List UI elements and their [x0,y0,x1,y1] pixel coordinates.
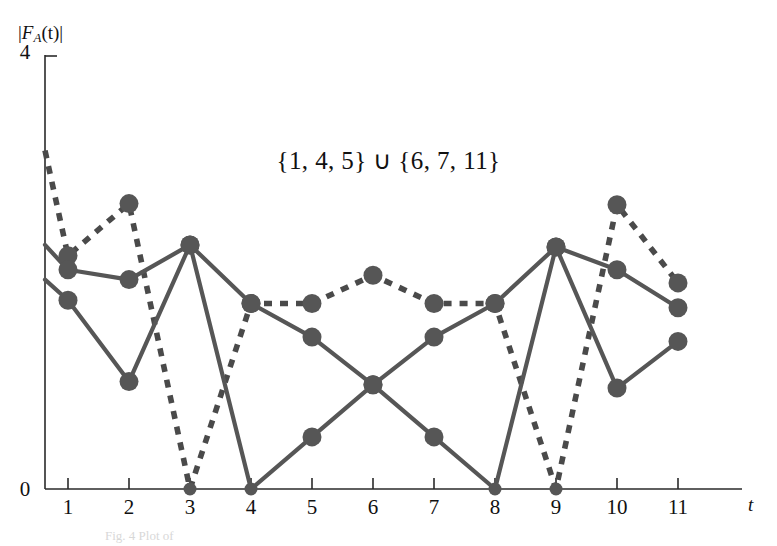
data-point-marker [303,328,322,347]
data-point-marker [59,291,78,310]
chart-figure: |FA(t)| t {1, 4, 5} ∪ {6, 7, 11} 1234567… [0,0,777,546]
data-point-marker [608,379,627,398]
data-point-marker [303,294,322,313]
axes-group [45,55,742,489]
x-tick-label: 8 [475,495,515,520]
data-point-marker [425,328,444,347]
data-point-marker [120,194,139,213]
y-tick-label: 4 [13,40,37,65]
x-tick-label: 10 [597,495,637,520]
x-tick-label: 9 [536,495,576,520]
series-layer [45,151,678,490]
marker-layer [59,194,688,495]
data-point-marker [59,260,78,279]
data-point-marker [364,266,383,285]
x-tick-label: 6 [353,495,393,520]
data-point-marker [547,238,566,257]
data-point-marker [608,195,627,214]
data-point-marker [181,235,200,254]
data-point-marker [425,294,444,313]
x-tick-label: 3 [170,495,210,520]
data-point-marker [184,483,197,496]
x-tick-label: 11 [658,495,698,520]
data-point-marker [303,427,322,446]
y-tick-label: 0 [13,477,37,502]
data-point-marker [425,427,444,446]
x-tick-label: 4 [231,495,271,520]
x-axis-ticks [68,478,678,489]
x-tick-label: 5 [292,495,332,520]
data-point-marker [608,260,627,279]
data-point-marker [364,375,383,394]
data-point-marker [120,270,139,289]
x-tick-label: 1 [48,495,88,520]
data-point-marker [669,298,688,317]
figure-caption: Fig. 4 Plot of [105,528,174,544]
data-point-marker [245,483,258,496]
series-line-dashed-series [45,151,678,490]
data-point-marker [669,273,688,292]
data-point-marker [486,294,505,313]
plot-area [0,0,777,546]
data-point-marker [120,372,139,391]
data-point-marker [550,483,563,496]
x-tick-label: 2 [109,495,149,520]
data-point-marker [489,483,502,496]
data-point-marker [242,294,261,313]
data-point-marker [669,332,688,351]
x-tick-label: 7 [414,495,454,520]
